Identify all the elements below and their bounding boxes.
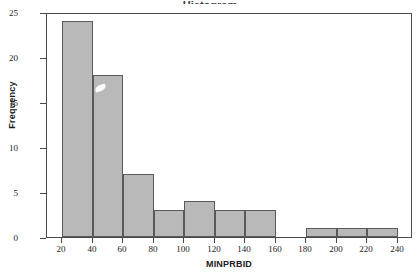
x-tick-label: 180 bbox=[290, 244, 320, 254]
y-tick-label: 5 bbox=[14, 189, 19, 198]
x-tick-label: 220 bbox=[351, 244, 381, 254]
y-tick-label: 10 bbox=[9, 144, 18, 153]
x-tick-label: 200 bbox=[321, 244, 351, 254]
histogram-bar bbox=[337, 228, 368, 237]
x-axis: MINPRBID 2040608010012014016018020022024… bbox=[0, 238, 420, 276]
x-tick-mark bbox=[61, 238, 62, 243]
x-tick-mark bbox=[183, 238, 184, 243]
x-tick-mark bbox=[92, 238, 93, 243]
histogram-bar bbox=[123, 174, 154, 237]
x-tick-mark bbox=[305, 238, 306, 243]
x-tick-label: 60 bbox=[107, 244, 137, 254]
x-tick-label: 240 bbox=[382, 244, 412, 254]
histogram-bar bbox=[306, 228, 337, 237]
x-tick-mark bbox=[397, 238, 398, 243]
histogram-bar bbox=[245, 210, 276, 237]
x-tick-label: 140 bbox=[229, 244, 259, 254]
x-tick-mark bbox=[366, 238, 367, 243]
histogram-bar bbox=[93, 75, 124, 237]
y-tick-label: 25 bbox=[9, 9, 18, 18]
histogram-bar bbox=[184, 201, 215, 237]
x-tick-mark bbox=[122, 238, 123, 243]
x-tick-label: 20 bbox=[46, 244, 76, 254]
histogram-bar bbox=[367, 228, 398, 237]
y-axis: Frequency 0510152025 bbox=[0, 0, 46, 276]
histogram-bar bbox=[154, 210, 185, 237]
x-tick-mark bbox=[153, 238, 154, 243]
histogram-bar bbox=[215, 210, 246, 237]
x-tick-label: 160 bbox=[260, 244, 290, 254]
x-tick-mark bbox=[336, 238, 337, 243]
x-tick-label: 40 bbox=[77, 244, 107, 254]
x-axis-title: MINPRBID bbox=[46, 259, 412, 269]
plot-area bbox=[46, 13, 412, 238]
y-tick-label: 20 bbox=[9, 54, 18, 63]
histogram-figure: Frequency 0510152025 MINPRBID 2040608010… bbox=[0, 0, 420, 276]
histogram-bars bbox=[47, 14, 411, 237]
histogram-bar bbox=[62, 21, 93, 237]
x-tick-mark bbox=[214, 238, 215, 243]
x-tick-label: 120 bbox=[199, 244, 229, 254]
x-tick-label: 100 bbox=[168, 244, 198, 254]
x-tick-mark bbox=[244, 238, 245, 243]
y-tick-label: 15 bbox=[9, 99, 18, 108]
x-tick-mark bbox=[275, 238, 276, 243]
x-tick-label: 80 bbox=[138, 244, 168, 254]
